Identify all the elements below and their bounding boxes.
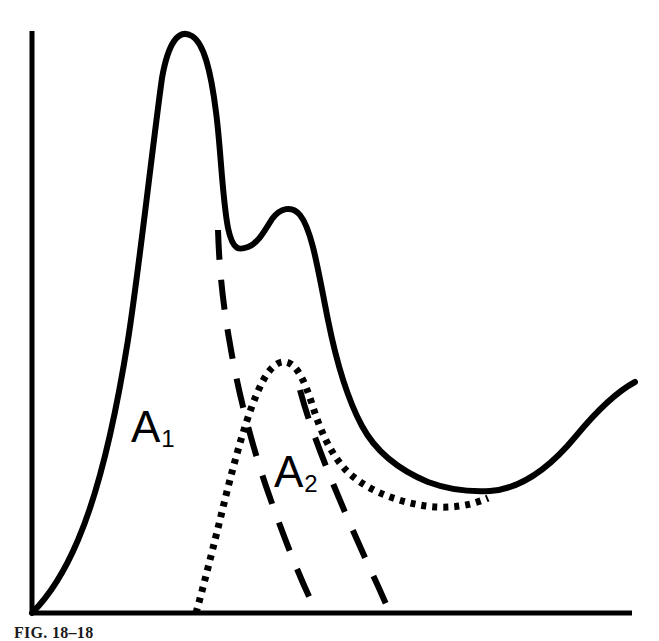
label-a2-subscript: 2 xyxy=(304,470,317,497)
label-a2: A2 xyxy=(274,450,318,496)
label-a2-base: A xyxy=(274,447,303,496)
label-a1-subscript: 1 xyxy=(161,425,174,452)
spectrum-plot xyxy=(0,0,659,641)
component-a2-curve xyxy=(300,390,390,613)
figure-caption: FIG. 18–18 xyxy=(14,624,93,641)
label-a1-base: A xyxy=(131,402,160,451)
component-a1-curve xyxy=(218,230,318,613)
total-spectrum-curve xyxy=(32,34,635,613)
label-a1: A1 xyxy=(131,405,175,451)
figure-container: A1 A2 FIG. 18–18 xyxy=(0,0,659,641)
